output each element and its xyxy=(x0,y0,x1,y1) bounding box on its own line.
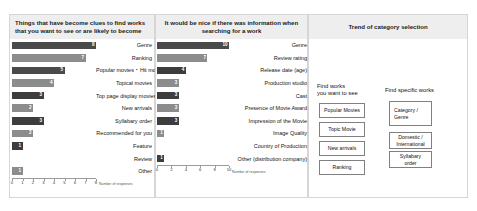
panel-trend-title: Trend of category selection xyxy=(309,15,467,39)
bar-row: 4Release date (age) xyxy=(157,64,307,77)
bar-value-label: 3 xyxy=(175,106,179,111)
panel-clues-title: Things that have become clues to find wo… xyxy=(10,15,154,39)
box-category-genre[interactable]: Category / Genre xyxy=(389,101,432,126)
bar: 3 xyxy=(12,92,44,100)
bar-row: 3Cast xyxy=(157,89,307,102)
bar-value-label: 7 xyxy=(203,56,207,61)
bar-category-label: Other (distribution company) xyxy=(228,156,307,162)
axis-tick-label: 6 xyxy=(74,181,76,185)
bar-row: 7Review rating xyxy=(157,52,307,65)
bar-category-label: Review rating xyxy=(228,55,307,61)
bar-category-label: Review xyxy=(95,156,152,162)
bar-category-label: Genre xyxy=(229,42,307,48)
bar-row: 1Other xyxy=(12,165,152,178)
bar: 1 xyxy=(157,130,164,138)
bar-track: 4 xyxy=(157,64,228,77)
bar-chart-nice-info-rows: 10Genre7Review rating4Release date (age)… xyxy=(157,39,307,165)
bar-category-label: Image Quality xyxy=(228,130,307,136)
bar-category-label: Release date (age) xyxy=(228,67,307,73)
bar-row: 3Production studio xyxy=(157,77,307,90)
bar-track: 10 xyxy=(157,39,229,52)
box-syllabary-order[interactable]: Syllabary order xyxy=(389,151,432,168)
bar: 1 xyxy=(157,155,164,163)
axis-tick-label: 8 xyxy=(213,168,215,172)
bar-track: 0 xyxy=(12,152,95,165)
bar-track: 5 xyxy=(12,64,94,77)
bar-track: 0 xyxy=(157,140,228,153)
box-popular-movies[interactable]: Popular Movies xyxy=(319,103,365,118)
diagram-left-title-line2: you want to see xyxy=(317,90,358,96)
bar-track: 3 xyxy=(12,115,95,128)
bar: 3 xyxy=(157,104,179,112)
axis-tick-label: 10 xyxy=(227,168,232,172)
bar-category-label: Recommended for you xyxy=(94,130,152,136)
axis-tick-label: 2 xyxy=(170,168,172,172)
diagram-left-title-line1: Find works xyxy=(317,83,345,89)
bar-row: 2Recommended for you xyxy=(12,127,152,140)
bar: 7 xyxy=(157,54,207,62)
bar-value-label: 1 xyxy=(160,156,164,161)
bar-value-label: 1 xyxy=(19,169,23,174)
axis-tick-label: 1 xyxy=(21,181,23,185)
bar: 3 xyxy=(157,79,179,87)
bar-category-label: Popular movies・Hit movies xyxy=(94,66,152,74)
box-new-arrivals[interactable]: New arrivals xyxy=(319,141,365,156)
bar: 2 xyxy=(12,104,33,112)
diagram-left-column-title: Find works you want to see xyxy=(317,83,358,98)
bar-value-label: 3 xyxy=(175,119,179,124)
bar: 3 xyxy=(157,92,179,100)
bar-category-label: Feature xyxy=(95,143,152,149)
bar-category-label: Other xyxy=(95,168,152,174)
bar-value-label: 4 xyxy=(182,68,186,73)
bar-category-label: Genre xyxy=(96,42,152,48)
box-domestic-international-line2: International xyxy=(396,141,425,147)
bar: 1 xyxy=(12,142,23,150)
box-domestic-international[interactable]: Domestic / International xyxy=(389,132,432,149)
bar-chart-clues-rows: 8Genre7Ranking5Popular movies・Hit movies… xyxy=(12,39,152,178)
panel-trend: Trend of category selection Find works y… xyxy=(308,14,468,198)
bar: 8 xyxy=(12,42,96,50)
bar-track: 2 xyxy=(12,102,95,115)
category-selection-diagram: Find works you want to see Find specific… xyxy=(309,39,467,197)
bar-chart-clues-axis: 012345678 xyxy=(12,178,96,188)
bar-track: 3 xyxy=(12,89,94,102)
bar: 7 xyxy=(12,54,86,62)
axis-tick-label: 5 xyxy=(63,181,65,185)
bar-value-label: 1 xyxy=(19,144,23,149)
panel-nice-info-title: It would be nice if there was informatio… xyxy=(156,15,307,39)
bar-row: 3Impression of the Movie xyxy=(157,115,307,128)
bar-track: 1 xyxy=(12,140,95,153)
bar-value-label: 4 xyxy=(50,81,54,86)
bar-row: 3Presence of Movie Award xyxy=(157,102,307,115)
box-ranking[interactable]: Ranking xyxy=(319,160,365,175)
bar-track: 7 xyxy=(12,52,95,65)
axis-tick-label: 6 xyxy=(199,168,201,172)
bar-track: 1 xyxy=(157,127,228,140)
bar-track: 4 xyxy=(12,77,95,90)
box-syllabary-order-line2: order xyxy=(404,160,416,166)
bar-row: 5Popular movies・Hit movies xyxy=(12,64,152,77)
axis-tick-label: 8 xyxy=(95,181,97,185)
diagram-right-column-title: Find specific works xyxy=(385,87,434,94)
bar-value-label: 7 xyxy=(82,56,86,61)
bar-chart-nice-info-axis: 0246810 xyxy=(157,165,229,175)
axis-tick-label: 4 xyxy=(53,181,55,185)
bar: 10 xyxy=(157,42,229,50)
bar-row: 10Genre xyxy=(157,39,307,52)
bar-category-label: Impression of the Movie xyxy=(228,118,307,124)
axis-tick-label: 4 xyxy=(185,168,187,172)
bar: 5 xyxy=(12,67,65,75)
axis-tick-label: 3 xyxy=(42,181,44,185)
box-topic-movie[interactable]: Topic Movie xyxy=(319,122,365,137)
bar-row: 3Top page display movies xyxy=(12,89,152,102)
bar-category-label: Presence of Movie Award xyxy=(228,105,307,111)
bar-value-label: 3 xyxy=(175,81,179,86)
bar-track: 3 xyxy=(157,115,228,128)
bar-chart-nice-info-axis-title: Number of responses xyxy=(232,171,265,175)
bar-row: 1Other (distribution company) xyxy=(157,152,307,165)
bar: 1 xyxy=(12,167,23,175)
bar-track: 3 xyxy=(157,89,228,102)
axis-tick-label: 2 xyxy=(32,181,34,185)
bar-chart-nice-info: 10Genre7Review rating4Release date (age)… xyxy=(156,39,307,175)
bar-value-label: 3 xyxy=(175,93,179,98)
